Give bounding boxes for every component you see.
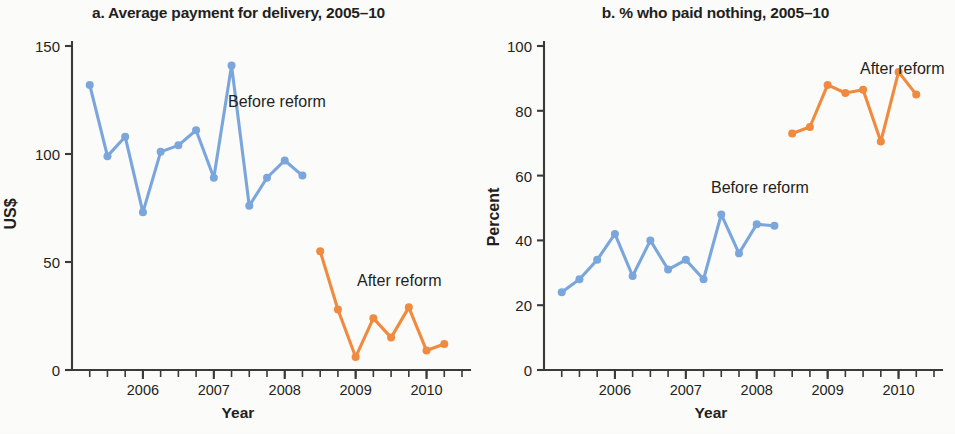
y-tick-label: 100 bbox=[477, 38, 532, 55]
figure-two-panel-line-charts: a. Average payment for delivery, 2005–10… bbox=[0, 0, 955, 434]
y-tick-label: 0 bbox=[477, 362, 532, 379]
y-tick-label: 60 bbox=[477, 167, 532, 184]
x-tick-label: 2009 bbox=[811, 382, 843, 398]
y-tick-label: 50 bbox=[0, 254, 60, 271]
x-tick-label: 2010 bbox=[882, 382, 914, 398]
series-annotation-after-reform: After reform bbox=[357, 272, 441, 290]
panel-b: b. % who paid nothing, 2005–10 Percent Y… bbox=[477, 0, 954, 434]
y-tick-label: 100 bbox=[0, 146, 60, 163]
x-tick-label: 2006 bbox=[599, 382, 631, 398]
series-annotation-after-reform: After reform bbox=[860, 60, 944, 78]
y-tick-label: 20 bbox=[477, 297, 532, 314]
y-tick-label: 0 bbox=[0, 362, 60, 379]
panel-a-plot-area bbox=[0, 0, 477, 434]
y-tick-label: 150 bbox=[0, 38, 60, 55]
series-annotation-before-reform: Before reform bbox=[228, 93, 326, 111]
panel-a: a. Average payment for delivery, 2005–10… bbox=[0, 0, 477, 434]
x-tick-label: 2007 bbox=[670, 382, 702, 398]
series-annotation-before-reform: Before reform bbox=[711, 179, 809, 197]
x-tick-label: 2009 bbox=[339, 382, 371, 398]
panel-b-x-axis-label: Year bbox=[695, 404, 728, 422]
x-tick-label: 2008 bbox=[741, 382, 773, 398]
x-tick-label: 2008 bbox=[269, 382, 301, 398]
y-tick-label: 80 bbox=[477, 102, 532, 119]
x-tick-label: 2010 bbox=[410, 382, 442, 398]
x-tick-label: 2006 bbox=[127, 382, 159, 398]
panel-a-x-axis-label: Year bbox=[222, 404, 255, 422]
y-tick-label: 40 bbox=[477, 232, 532, 249]
x-tick-label: 2007 bbox=[198, 382, 230, 398]
